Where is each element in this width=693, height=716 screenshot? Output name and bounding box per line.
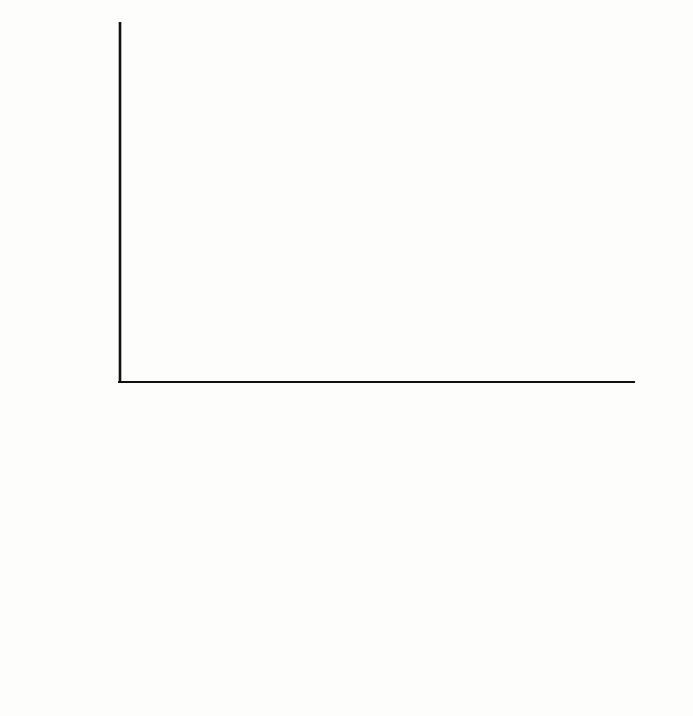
- figure-svg: [0, 0, 693, 716]
- gantt-chart: [118, 22, 635, 382]
- gantt-and-resource-histogram-figure: [0, 0, 693, 716]
